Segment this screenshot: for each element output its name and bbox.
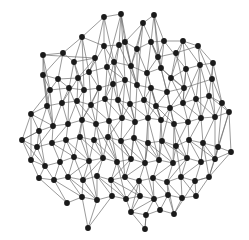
graph-node[interactable] — [79, 194, 85, 200]
graph-node[interactable] — [212, 114, 218, 120]
graph-node[interactable] — [55, 76, 61, 82]
graph-node[interactable] — [59, 100, 65, 106]
graph-node[interactable] — [118, 11, 124, 17]
graph-node[interactable] — [79, 117, 85, 123]
graph-node[interactable] — [210, 60, 216, 66]
graph-node[interactable] — [51, 177, 57, 183]
graph-node[interactable] — [101, 43, 107, 49]
graph-node[interactable] — [128, 156, 134, 162]
graph-node[interactable] — [94, 173, 100, 179]
graph-node[interactable] — [151, 196, 157, 202]
graph-node[interactable] — [134, 82, 140, 88]
graph-node[interactable] — [77, 134, 83, 140]
graph-node[interactable] — [212, 156, 218, 162]
graph-node[interactable] — [106, 118, 112, 124]
graph-node[interactable] — [104, 64, 110, 70]
graph-node[interactable] — [173, 50, 179, 56]
graph-node[interactable] — [159, 138, 165, 144]
graph-node[interactable] — [150, 175, 156, 181]
graph-node[interactable] — [66, 85, 72, 91]
graph-node[interactable] — [134, 46, 140, 52]
graph-node[interactable] — [65, 174, 71, 180]
graph-node[interactable] — [91, 137, 97, 143]
graph-node[interactable] — [181, 85, 187, 91]
graph-node[interactable] — [198, 159, 204, 165]
graph-node[interactable] — [140, 20, 146, 26]
graph-node[interactable] — [226, 109, 232, 115]
graph-node[interactable] — [50, 123, 56, 129]
graph-node[interactable] — [109, 193, 115, 199]
graph-node[interactable] — [71, 59, 77, 65]
graph-node[interactable] — [105, 134, 111, 140]
graph-node[interactable] — [63, 137, 69, 143]
graph-node[interactable] — [110, 81, 116, 87]
graph-node[interactable] — [93, 121, 99, 127]
graph-node[interactable] — [92, 55, 98, 61]
graph-node[interactable] — [151, 12, 157, 18]
graph-node[interactable] — [158, 117, 164, 123]
graph-node[interactable] — [179, 195, 185, 201]
graph-node[interactable] — [144, 70, 150, 76]
graph-node[interactable] — [116, 42, 122, 48]
graph-node[interactable] — [86, 158, 92, 164]
graph-node[interactable] — [79, 34, 85, 40]
graph-node[interactable] — [36, 128, 42, 134]
graph-node[interactable] — [148, 39, 154, 45]
graph-node[interactable] — [64, 200, 70, 206]
graph-node[interactable] — [148, 85, 154, 91]
graph-node[interactable] — [123, 196, 129, 202]
graph-node[interactable] — [94, 197, 100, 203]
graph-node[interactable] — [180, 100, 186, 106]
graph-node[interactable] — [114, 159, 120, 165]
graph-node[interactable] — [119, 115, 125, 121]
graph-node[interactable] — [122, 174, 128, 180]
graph-node[interactable] — [165, 192, 171, 198]
graph-node[interactable] — [195, 43, 201, 49]
graph-node[interactable] — [170, 160, 176, 166]
graph-node[interactable] — [75, 75, 81, 81]
graph-node[interactable] — [128, 209, 134, 215]
graph-node[interactable] — [215, 144, 221, 150]
graph-node[interactable] — [47, 87, 53, 93]
graph-node[interactable] — [186, 137, 192, 143]
graph-node[interactable] — [137, 193, 143, 199]
graph-node[interactable] — [19, 137, 25, 143]
graph-node[interactable] — [197, 62, 203, 68]
graph-node[interactable] — [44, 103, 50, 109]
graph-node[interactable] — [183, 66, 189, 72]
graph-node[interactable] — [102, 96, 108, 102]
graph-node[interactable] — [115, 97, 121, 103]
graph-node[interactable] — [173, 143, 179, 149]
graph-node[interactable] — [88, 102, 94, 108]
graph-node[interactable] — [100, 155, 106, 161]
graph-node[interactable] — [185, 119, 191, 125]
graph-node[interactable] — [164, 89, 170, 95]
graph-node[interactable] — [193, 193, 199, 199]
graph-node[interactable] — [161, 38, 167, 44]
graph-node[interactable] — [142, 226, 148, 232]
graph-node[interactable] — [206, 93, 212, 99]
graph-node[interactable] — [193, 96, 199, 102]
graph-node[interactable] — [158, 65, 164, 71]
graph-node[interactable] — [180, 38, 186, 44]
graph-node[interactable] — [228, 149, 234, 155]
graph-node[interactable] — [128, 63, 134, 69]
graph-node[interactable] — [60, 50, 66, 56]
graph-node[interactable] — [127, 101, 133, 107]
graph-node[interactable] — [206, 174, 212, 180]
graph-node[interactable] — [36, 175, 42, 181]
graph-node[interactable] — [132, 119, 138, 125]
graph-node[interactable] — [86, 69, 92, 75]
graph-node[interactable] — [155, 54, 161, 60]
graph-node[interactable] — [65, 121, 71, 127]
graph-node[interactable] — [178, 174, 184, 180]
graph-node[interactable] — [153, 103, 159, 109]
graph-node[interactable] — [192, 178, 198, 184]
graph-node[interactable] — [145, 115, 151, 121]
graph-node[interactable] — [40, 72, 46, 78]
graph-node[interactable] — [108, 177, 114, 183]
graph-node[interactable] — [81, 87, 87, 93]
graph-node[interactable] — [118, 138, 124, 144]
graph-node[interactable] — [96, 85, 102, 91]
graph-node[interactable] — [101, 14, 107, 20]
